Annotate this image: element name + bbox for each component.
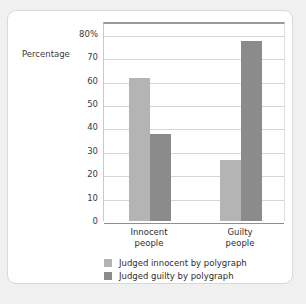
x-axis-category-labels: InnocentpeopleGuiltypeople	[103, 225, 285, 253]
y-tick-label: 40	[28, 123, 98, 131]
plot-area	[103, 22, 285, 221]
y-tick-label: 10	[28, 194, 98, 202]
y-tick-label: 70	[28, 53, 98, 61]
bar	[241, 41, 262, 221]
x-tick-label: Guiltypeople	[195, 227, 285, 249]
y-tick-label: 50	[28, 100, 98, 108]
x-tick-label-line: Innocent	[104, 227, 194, 238]
gridline	[104, 36, 284, 37]
legend-label: Judged innocent by polygraph	[119, 258, 247, 268]
chart-legend: Judged innocent by polygraphJudged guilt…	[104, 256, 290, 282]
legend-swatch-icon	[104, 272, 112, 280]
legend-swatch-icon	[104, 259, 112, 267]
chart-card: Percentage 01020304050607080% Innocentpe…	[7, 10, 293, 284]
bar-chart: Percentage 01020304050607080% Innocentpe…	[8, 11, 294, 285]
bar	[220, 160, 241, 221]
x-tick-label-line: people	[104, 238, 194, 249]
x-axis-baseline	[104, 223, 284, 224]
y-tick-label: 20	[28, 170, 98, 178]
y-tick-label: 60	[28, 77, 98, 85]
legend-item: Judged guilty by polygraph	[104, 269, 290, 282]
bar	[150, 134, 171, 221]
bar	[129, 78, 150, 221]
y-tick-label: 0	[28, 217, 98, 225]
x-tick-label-line: Guilty	[195, 227, 285, 238]
x-tick-label-line: people	[195, 238, 285, 249]
legend-label: Judged guilty by polygraph	[119, 271, 234, 281]
y-tick-label: 30	[28, 147, 98, 155]
y-tick-label: 80%	[28, 30, 98, 38]
x-tick-label: Innocentpeople	[104, 227, 194, 249]
legend-item: Judged innocent by polygraph	[104, 256, 290, 269]
y-axis-tick-labels: 01020304050607080%	[26, 22, 98, 221]
